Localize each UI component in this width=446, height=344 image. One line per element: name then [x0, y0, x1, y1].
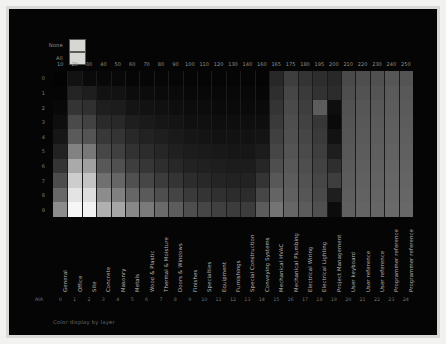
heatmap-cell[interactable] — [312, 173, 326, 188]
heatmap-cell[interactable] — [168, 144, 182, 159]
heatmap-cell[interactable] — [139, 173, 153, 188]
heatmap-cell[interactable] — [168, 71, 182, 86]
heatmap-cell[interactable] — [82, 173, 96, 188]
heatmap-cell[interactable] — [370, 86, 384, 101]
heatmap-cell[interactable] — [226, 188, 240, 203]
heatmap-cell[interactable] — [154, 202, 168, 217]
heatmap-cell[interactable] — [312, 115, 326, 130]
heatmap-cell[interactable] — [327, 71, 341, 86]
heatmap-cell[interactable] — [384, 144, 398, 159]
heatmap-cell[interactable] — [283, 71, 297, 86]
heatmap-cell[interactable] — [96, 159, 110, 174]
heatmap-cell[interactable] — [168, 100, 182, 115]
heatmap-cell[interactable] — [312, 159, 326, 174]
heatmap-cell[interactable] — [312, 202, 326, 217]
heatmap-cell[interactable] — [211, 202, 225, 217]
heatmap-cell[interactable] — [111, 86, 125, 101]
heatmap-cell[interactable] — [384, 86, 398, 101]
heatmap-cell[interactable] — [269, 159, 283, 174]
heatmap-cell[interactable] — [168, 86, 182, 101]
heatmap-cell[interactable] — [53, 71, 67, 86]
heatmap-cell[interactable] — [154, 159, 168, 174]
heatmap-cell[interactable] — [399, 115, 413, 130]
heatmap-cell[interactable] — [96, 100, 110, 115]
heatmap-cell[interactable] — [183, 100, 197, 115]
heatmap-cell[interactable] — [341, 144, 355, 159]
heatmap-cell[interactable] — [384, 71, 398, 86]
heatmap-cell[interactable] — [183, 159, 197, 174]
heatmap-cell[interactable] — [154, 129, 168, 144]
heatmap-cell[interactable] — [125, 202, 139, 217]
heatmap-cell[interactable] — [298, 86, 312, 101]
heatmap-cell[interactable] — [82, 159, 96, 174]
heatmap-cell[interactable] — [82, 144, 96, 159]
heatmap-cell[interactable] — [154, 115, 168, 130]
heatmap-cell[interactable] — [197, 71, 211, 86]
heatmap-cell[interactable] — [226, 129, 240, 144]
heatmap-cell[interactable] — [67, 86, 81, 101]
heatmap-cell[interactable] — [197, 188, 211, 203]
heatmap-cell[interactable] — [240, 202, 254, 217]
heatmap-cell[interactable] — [139, 71, 153, 86]
heatmap-cell[interactable] — [240, 144, 254, 159]
heatmap-cell[interactable] — [269, 202, 283, 217]
heatmap-cell[interactable] — [154, 144, 168, 159]
heatmap-cell[interactable] — [96, 86, 110, 101]
heatmap-cell[interactable] — [111, 71, 125, 86]
heatmap-cell[interactable] — [355, 202, 369, 217]
heatmap-cell[interactable] — [125, 71, 139, 86]
heatmap-cell[interactable] — [211, 144, 225, 159]
heatmap-cell[interactable] — [341, 100, 355, 115]
heatmap-cell[interactable] — [370, 100, 384, 115]
heatmap-cell[interactable] — [355, 188, 369, 203]
heatmap-cell[interactable] — [283, 173, 297, 188]
heatmap-cell[interactable] — [125, 144, 139, 159]
heatmap-cell[interactable] — [226, 86, 240, 101]
heatmap-cell[interactable] — [370, 115, 384, 130]
heatmap-cell[interactable] — [341, 202, 355, 217]
heatmap-cell[interactable] — [183, 86, 197, 101]
heatmap-cell[interactable] — [197, 100, 211, 115]
heatmap-cell[interactable] — [327, 188, 341, 203]
heatmap-cell[interactable] — [53, 188, 67, 203]
heatmap-cell[interactable] — [226, 173, 240, 188]
heatmap-cell[interactable] — [67, 129, 81, 144]
heatmap-cell[interactable] — [53, 159, 67, 174]
heatmap-cell[interactable] — [269, 144, 283, 159]
heatmap-cell[interactable] — [240, 86, 254, 101]
heatmap-cell[interactable] — [168, 159, 182, 174]
heatmap-cell[interactable] — [183, 202, 197, 217]
heatmap-cell[interactable] — [211, 100, 225, 115]
heatmap-cell[interactable] — [53, 129, 67, 144]
heatmap-cell[interactable] — [53, 202, 67, 217]
heatmap-cell[interactable] — [384, 100, 398, 115]
heatmap-cell[interactable] — [168, 202, 182, 217]
heatmap-cell[interactable] — [355, 173, 369, 188]
heatmap-cell[interactable] — [197, 129, 211, 144]
heatmap-cell[interactable] — [226, 115, 240, 130]
heatmap-cell[interactable] — [355, 129, 369, 144]
heatmap-cell[interactable] — [298, 188, 312, 203]
heatmap-cell[interactable] — [168, 188, 182, 203]
heatmap-cell[interactable] — [269, 115, 283, 130]
heatmap-cell[interactable] — [283, 159, 297, 174]
heatmap-cell[interactable] — [111, 173, 125, 188]
heatmap-cell[interactable] — [312, 188, 326, 203]
heatmap-cell[interactable] — [183, 188, 197, 203]
heatmap-cell[interactable] — [399, 144, 413, 159]
heatmap-cell[interactable] — [53, 173, 67, 188]
heatmap-cell[interactable] — [298, 115, 312, 130]
heatmap-cell[interactable] — [298, 100, 312, 115]
heatmap-cell[interactable] — [82, 188, 96, 203]
heatmap-cell[interactable] — [283, 188, 297, 203]
heatmap-cell[interactable] — [226, 144, 240, 159]
heatmap-cell[interactable] — [111, 159, 125, 174]
heatmap-cell[interactable] — [298, 71, 312, 86]
heatmap-cell[interactable] — [269, 71, 283, 86]
heatmap-cell[interactable] — [96, 129, 110, 144]
heatmap-cell[interactable] — [370, 129, 384, 144]
heatmap-cell[interactable] — [341, 71, 355, 86]
heatmap-cell[interactable] — [82, 129, 96, 144]
heatmap-cell[interactable] — [67, 188, 81, 203]
heatmap-cell[interactable] — [197, 115, 211, 130]
